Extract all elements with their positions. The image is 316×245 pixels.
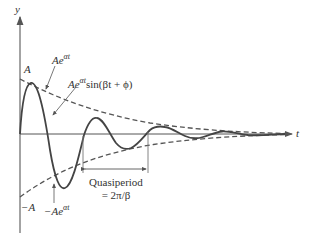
lower-envelope-label: −Aeαt: [44, 203, 70, 217]
t-axis-label: t: [296, 127, 300, 139]
curve-pointer: [53, 87, 76, 115]
negative-amplitude-label: −A: [21, 201, 35, 213]
quasiperiod-formula: = 2π/β: [102, 189, 131, 201]
damped-oscillation-diagram: y t A −A Aeαt Aeαtsin(βt + ϕ) −Aeαt Quas…: [0, 0, 316, 245]
amplitude-label: A: [23, 63, 31, 75]
y-axis-label: y: [14, 3, 20, 15]
damped-sine-curve: [20, 83, 285, 188]
lower-envelope: [20, 135, 285, 198]
quasiperiod-label: Quasiperiod: [89, 176, 143, 188]
curve-formula-label: Aeαtsin(βt + ϕ): [67, 76, 133, 91]
upper-envelope-pointer: [46, 66, 55, 89]
upper-envelope-label: Aeαt: [51, 52, 71, 66]
